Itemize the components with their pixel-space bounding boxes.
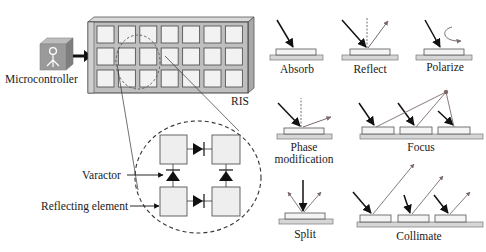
- function-polarize: [416, 20, 472, 60]
- varactor-top: [187, 142, 212, 156]
- ris-cell: [161, 48, 178, 65]
- ris-cell: [140, 26, 157, 43]
- ris-cell: [161, 70, 178, 87]
- ris-cell: [183, 70, 200, 87]
- microcontroller-label: Microcontroller: [5, 73, 78, 85]
- focus-label: Focus: [407, 141, 434, 153]
- function-absorb: [270, 20, 323, 60]
- varactor-label: Varactor: [82, 169, 121, 181]
- reflecting-element-label: Reflecting element: [41, 200, 128, 212]
- ris-cell: [225, 48, 242, 65]
- ris-cell: [204, 70, 221, 87]
- ris-cell: [161, 26, 178, 43]
- ris-cell: [140, 70, 157, 87]
- ris-cell: [204, 48, 221, 65]
- zoomed-unit-cell: [127, 121, 261, 233]
- varactor-left: [166, 164, 180, 187]
- collimate-label: Collimate: [396, 230, 441, 242]
- split-label: Split: [294, 228, 316, 240]
- function-reflect: [342, 18, 398, 60]
- ris-cell: [225, 70, 242, 87]
- ris-cell: [204, 26, 221, 43]
- microcontroller-icon: [40, 38, 73, 70]
- function-split: [279, 180, 333, 224]
- ris-cell: [97, 48, 114, 65]
- ris-cell: [140, 48, 157, 65]
- phase-label-line2: modification: [275, 153, 334, 165]
- ris-cell: [97, 70, 114, 87]
- ris-panel: [88, 17, 254, 93]
- ris-cell: [225, 26, 242, 43]
- polarize-label: Polarize: [426, 61, 464, 73]
- phase-label-line1: Phase: [291, 141, 318, 153]
- function-collimate: [353, 164, 483, 227]
- function-focus: [359, 90, 483, 139]
- ris-cell: [118, 48, 135, 65]
- function-phase-modification: [277, 98, 332, 139]
- ris-label: RIS: [231, 95, 249, 107]
- varactor-right: [219, 164, 233, 187]
- ris-cell: [183, 48, 200, 65]
- reflect-label: Reflect: [353, 63, 386, 75]
- ris-functions-diagram: Microcontroller RIS Varactor Reflecting …: [0, 0, 486, 252]
- varactor-bottom: [187, 194, 212, 208]
- absorb-label: Absorb: [280, 63, 314, 75]
- ris-cell: [183, 26, 200, 43]
- ris-cell: [97, 26, 114, 43]
- ris-cell: [118, 26, 135, 43]
